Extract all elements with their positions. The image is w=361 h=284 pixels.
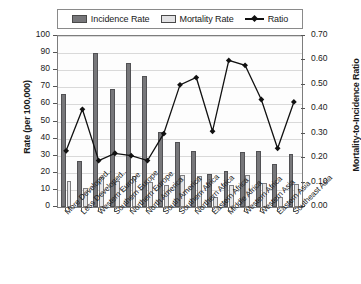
y-axis-left-tick-mark [53, 206, 57, 207]
y-axis-left-tick-mark [53, 172, 57, 173]
legend-item-mortality: Mortality Rate [161, 14, 234, 24]
ratio-point-marker [291, 99, 297, 105]
ratio-point-marker [80, 106, 86, 112]
y-axis-left-tick-mark [53, 189, 57, 190]
y-axis-right-tick-label: 0.30 [311, 127, 351, 137]
y-axis-right-tick-label: 0.40 [311, 102, 351, 112]
x-axis-tick-mark [195, 208, 196, 212]
legend-label-incidence: Incidence Rate [91, 14, 150, 24]
ratio-point-marker [112, 150, 118, 156]
y-axis-left-tick-mark [53, 52, 57, 53]
ratio-polyline [66, 60, 294, 160]
ratio-point-marker [96, 158, 102, 164]
y-axis-left-tick-mark [53, 121, 57, 122]
x-axis-tick-mark [65, 208, 66, 212]
y-axis-left-tick-mark [53, 35, 57, 36]
y-axis-right-tick-mark [301, 133, 305, 134]
legend-marker-ratio-icon [245, 15, 264, 23]
y-axis-left-tick-label: 40 [10, 132, 50, 142]
legend-label-ratio: Ratio [268, 14, 289, 24]
x-axis-tick-mark [130, 208, 131, 212]
ratio-point-marker [128, 153, 134, 159]
x-axis-labels: More Developed..Less Developed..Western … [0, 208, 359, 284]
x-axis-tick-mark [260, 208, 261, 212]
y-axis-right-tick-mark [301, 108, 305, 109]
x-axis-tick-mark [212, 208, 213, 212]
y-axis-right-tick-label: 0.70 [311, 29, 351, 39]
y-axis-left-tick-label: 60 [10, 97, 50, 107]
ratio-point-marker [210, 128, 216, 134]
y-axis-left-tick-label: 80 [10, 63, 50, 73]
ratio-point-marker [258, 97, 264, 103]
y-axis-right-tick-mark [301, 84, 305, 85]
y-axis-left-tick-label: 10 [10, 183, 50, 193]
y-axis-left-tick-mark [53, 86, 57, 87]
legend-item-incidence: Incidence Rate [72, 14, 150, 24]
ratio-point-marker [63, 148, 69, 154]
y-axis-right-tick-mark [301, 59, 305, 60]
chart-legend: Incidence Rate Mortality Rate Ratio [57, 9, 303, 29]
ratio-point-marker [242, 62, 248, 68]
y-axis-right-tick-label: 0.60 [311, 53, 351, 63]
legend-swatch-mortality [161, 15, 176, 23]
legend-item-ratio: Ratio [245, 14, 289, 24]
x-axis-tick-mark [163, 208, 164, 212]
ratio-point-marker [177, 82, 183, 88]
legend-swatch-incidence [72, 15, 87, 23]
ratio-point-marker [226, 58, 232, 64]
y-axis-left-tick-mark [53, 69, 57, 70]
x-axis-tick-mark [293, 208, 294, 212]
ratio-point-marker [145, 158, 151, 164]
y-axis-left-tick-label: 30 [10, 149, 50, 159]
x-axis-tick-mark [277, 208, 278, 212]
y-axis-right-title: Mortality-to-Incidence Ratio [351, 40, 361, 190]
y-axis-left-tick-label: 20 [10, 166, 50, 176]
ratio-point-marker [161, 131, 167, 137]
y-axis-left-tick-label: 50 [10, 115, 50, 125]
y-axis-right-tick-mark [301, 157, 305, 158]
x-axis-tick-mark [98, 208, 99, 212]
ratio-point-marker [275, 145, 281, 151]
y-axis-left-tick-mark [53, 155, 57, 156]
y-axis-left-tick-label: 90 [10, 46, 50, 56]
y-axis-right-tick-label: 0.50 [311, 78, 351, 88]
y-axis-left-tick-mark [53, 103, 57, 104]
y-axis-left-tick-label: 100 [10, 29, 50, 39]
x-axis-tick-mark [114, 208, 115, 212]
x-axis-tick-mark [179, 208, 180, 212]
x-axis-tick-mark [146, 208, 147, 212]
ratio-point-marker [193, 75, 199, 81]
y-axis-right-tick-mark [301, 35, 305, 36]
y-axis-left-tick-label: 70 [10, 80, 50, 90]
legend-label-mortality: Mortality Rate [180, 14, 234, 24]
y-axis-right-tick-label: 0.20 [311, 151, 351, 161]
y-axis-left-tick-mark [53, 138, 57, 139]
x-axis-tick-mark [228, 208, 229, 212]
x-axis-tick-mark [81, 208, 82, 212]
x-axis-tick-mark [244, 208, 245, 212]
